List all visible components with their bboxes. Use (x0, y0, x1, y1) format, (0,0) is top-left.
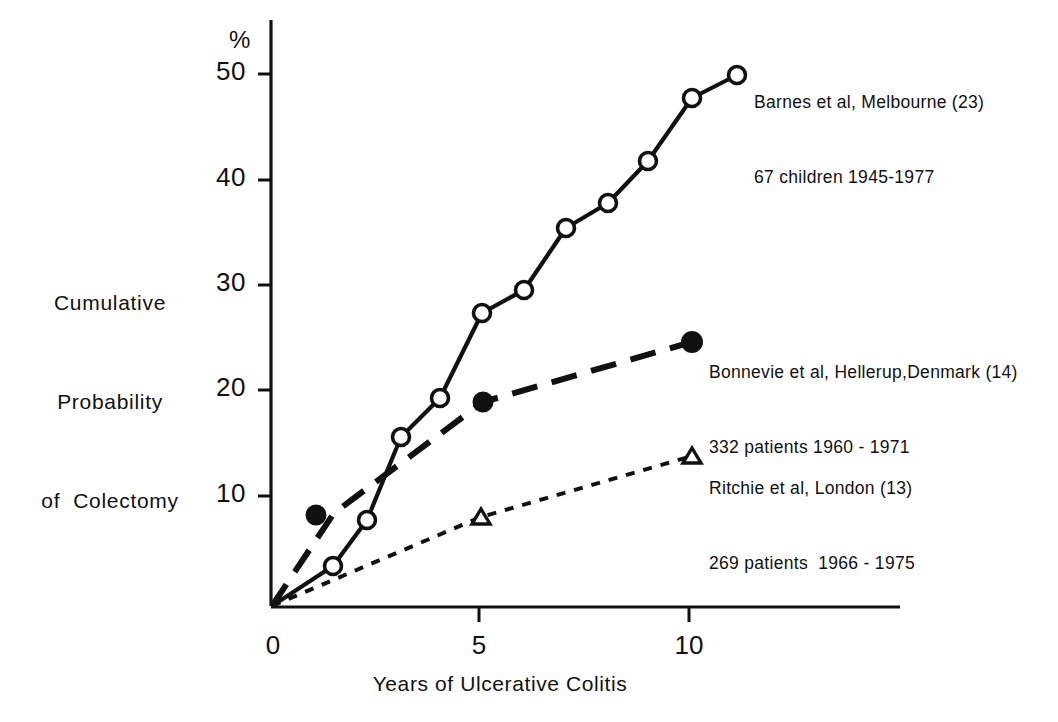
legend-ritchie: Ritchie et al, London (13) 269 patients … (709, 426, 915, 626)
y-axis-title-line-2: Probability (10, 385, 210, 418)
legend-barnes-line-1: Barnes et al, Melbourne (23) (754, 90, 984, 115)
y-axis-title-line-1: Cumulative (10, 286, 210, 319)
y-axis-unit-label: % (229, 26, 250, 54)
x-tick-label-5: 5 (449, 630, 509, 661)
legend-barnes-line-2: 67 children 1945-1977 (754, 165, 984, 190)
series-markers-barnes (325, 67, 746, 575)
y-tick-label-40: 40 (186, 162, 246, 193)
series-markers-ritchie (472, 448, 701, 524)
legend-bonnevie-line-1: Bonnevie et al, Hellerup,Denmark (14) (709, 360, 1018, 385)
x-tick-label-0: 0 (243, 630, 303, 661)
x-tick-label-10: 10 (659, 630, 719, 661)
legend-barnes: Barnes et al, Melbourne (23) 67 children… (754, 40, 984, 240)
series-line-ritchie (272, 456, 692, 606)
y-tick-marks (258, 74, 271, 496)
series-line-barnes (272, 75, 737, 606)
figure-canvas: % 50 40 30 20 10 0 5 10 Cumulative Proba… (0, 0, 1058, 722)
series-markers-bonnevie (307, 332, 703, 525)
legend-ritchie-line-1: Ritchie et al, London (13) (709, 476, 915, 501)
y-axis-title: Cumulative Probability of Colectomy (10, 220, 210, 583)
x-axis-title: Years of Ulcerative Colitis (0, 672, 1000, 696)
x-tick-marks (479, 607, 689, 622)
y-tick-label-50: 50 (186, 56, 246, 87)
y-axis-title-line-3: of Colectomy (10, 484, 210, 517)
legend-ritchie-line-2: 269 patients 1966 - 1975 (709, 551, 915, 576)
